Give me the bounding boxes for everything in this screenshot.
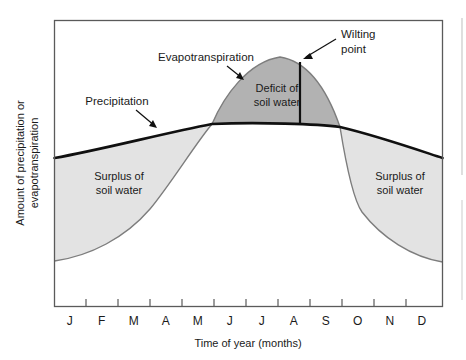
x-tick-label-apr: A [162,314,171,328]
deficit-region-label-line1: Deficit of [256,82,300,94]
soil-water-budget-chart: J F M A M J J A S O N D Time of year (mo… [0,0,466,360]
surplus-right-label-line1: Surplus of [375,170,425,182]
x-tick-label-jun: J [227,314,234,328]
x-tick-label-mar: M [129,314,140,328]
wilting-point-annotation-line2: point [341,43,367,55]
x-tick-label-oct: O [353,314,363,328]
x-tick-label-sep: S [322,314,331,328]
x-axis-title: Time of year (months) [194,337,301,349]
wilting-point-annotation-line1: Wilting [341,28,376,40]
precipitation-annotation-label: Precipitation [85,95,148,107]
deficit-region-label-line2: soil water [254,96,301,108]
surplus-right-label-line2: soil water [377,184,424,196]
y-axis-title-line1: Amount of precipitation or [14,100,26,226]
surplus-left-label-line1: Surplus of [94,170,144,182]
surplus-left-label-line2: soil water [96,184,143,196]
y-axis-title-line2: evapotranspiration [28,118,40,209]
evapotranspiration-annotation-label: Evapotranspiration [158,51,254,63]
x-tick-label-jan: J [67,314,74,328]
x-tick-label-aug: A [290,314,299,328]
x-tick-label-nov: N [385,314,394,328]
x-tick-label-jul: J [259,314,266,328]
x-tick-label-may: M [193,314,204,328]
x-tick-label-feb: F [98,314,106,328]
x-tick-label-dec: D [417,314,426,328]
